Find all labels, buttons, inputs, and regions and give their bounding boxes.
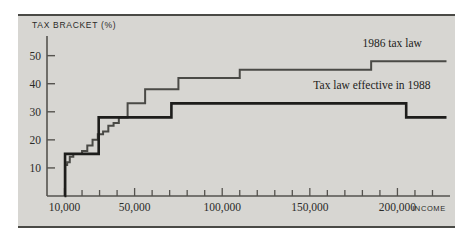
x-tick-label: 10,000	[49, 201, 81, 214]
series-label: 1986 tax law	[362, 37, 422, 49]
chart-plot: 1020304050 10,00050,000100,000150,000200…	[0, 0, 473, 242]
y-axis-group: 1020304050	[30, 36, 56, 196]
y-tick-group: 1020304050	[30, 50, 56, 174]
x-tick-label: 150,000	[291, 201, 329, 214]
x-tick-label: 200,000	[379, 201, 417, 214]
x-axis-title: INCOME	[412, 204, 446, 213]
x-tick-label: 100,000	[204, 201, 242, 214]
y-tick-label: 20	[30, 134, 42, 146]
chart-figure: TAX BRACKET (%) 1020304050 10,00050,0001…	[0, 0, 473, 242]
x-tick-group: 10,00050,000100,000150,000200,000	[49, 188, 433, 214]
y-tick-label: 50	[30, 50, 42, 62]
y-tick-label: 10	[30, 162, 42, 174]
x-axis-group: 10,00050,000100,000150,000200,000	[47, 188, 450, 214]
y-tick-label: 30	[30, 106, 42, 118]
x-tick-label: 50,000	[119, 201, 151, 214]
series-label: Tax law effective in 1988	[313, 79, 430, 91]
series-step-line	[65, 103, 447, 196]
y-tick-label: 40	[30, 78, 42, 90]
